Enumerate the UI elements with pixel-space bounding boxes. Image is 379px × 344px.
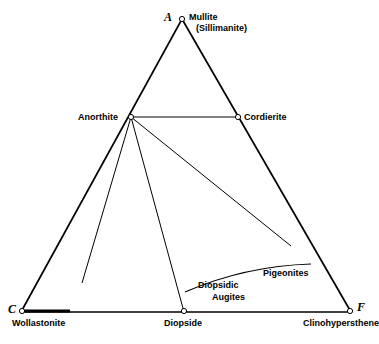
node-mullite — [179, 16, 184, 21]
tie-line-anorthite-diopside — [131, 117, 184, 312]
corner-label-f: F — [357, 301, 365, 313]
label-diopside: Diopside — [164, 318, 202, 328]
label-augites: Augites — [212, 292, 245, 302]
node-diopside — [181, 308, 186, 313]
label-pigeonites: Pigeonites — [263, 268, 309, 278]
label-anorthite: Anorthite — [78, 112, 118, 122]
node-anorthite — [128, 114, 133, 119]
label-cordierite: Cordierite — [244, 112, 287, 122]
label-mullite-group: Mullite (Sillimanite) — [189, 12, 247, 34]
corner-label-c: C — [8, 303, 16, 315]
corner-label-a: A — [164, 11, 172, 23]
label-diopsidic: Diopsidic — [198, 280, 239, 290]
label-clinohypersthene: Clinohypersthene — [303, 318, 379, 328]
label-mullite: Mullite — [189, 12, 218, 22]
tie-line-anorthite-pigeonite — [131, 117, 291, 246]
node-cordierite — [235, 114, 240, 119]
tie-line-anorthite-augite — [82, 117, 131, 283]
node-wollastonite — [19, 308, 24, 313]
label-sillimanite: (Sillimanite) — [189, 23, 247, 34]
label-wollastonite: Wollastonite — [12, 318, 65, 328]
node-clinohypersthene — [347, 308, 352, 313]
